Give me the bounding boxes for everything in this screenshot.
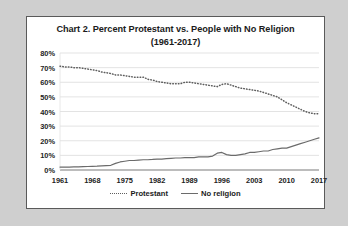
x-tick-label: 2010 <box>278 176 294 185</box>
y-tick-label: 20% <box>27 136 55 145</box>
x-tick-label: 1996 <box>214 176 230 185</box>
series-line-protestant <box>60 66 319 114</box>
y-tick-label: 0% <box>27 166 55 175</box>
y-tick-label: 40% <box>27 107 55 116</box>
legend-label-no-religion: No religion <box>201 189 241 198</box>
x-tick-label: 1975 <box>117 176 133 185</box>
legend-swatch-dotted-icon <box>110 193 127 194</box>
x-tick-label: 2003 <box>246 176 262 185</box>
y-tick-label: 60% <box>27 78 55 87</box>
legend-item-protestant: Protestant <box>110 189 168 198</box>
x-tick-label: 1961 <box>52 176 68 185</box>
y-tick-label: 80% <box>27 49 55 58</box>
y-tick-label: 30% <box>27 122 55 131</box>
y-tick-label: 70% <box>27 63 55 72</box>
x-tick-label: 1968 <box>84 176 100 185</box>
legend-label-protestant: Protestant <box>130 189 168 198</box>
x-tick-label: 1982 <box>149 176 165 185</box>
x-tick-label: 2017 <box>311 176 327 185</box>
chart-container: Chart 2. Percent Protestant vs. People w… <box>26 16 325 209</box>
legend-item-no-religion: No religion <box>181 189 241 198</box>
plot-area: 0%10%20%30%40%50%60%70%80% 1961196819751… <box>27 17 326 210</box>
chart-page: Chart 2. Percent Protestant vs. People w… <box>0 0 348 226</box>
series-layer <box>60 66 319 167</box>
chart-legend: Protestant No religion <box>27 189 324 198</box>
legend-swatch-solid-icon <box>181 193 198 194</box>
series-line-no-religion <box>60 138 319 167</box>
y-tick-label: 50% <box>27 92 55 101</box>
x-tick-label: 1989 <box>181 176 197 185</box>
y-tick-label: 10% <box>27 151 55 160</box>
